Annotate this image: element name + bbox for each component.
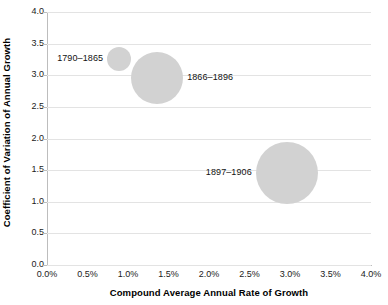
y-axis-tick-mark bbox=[43, 75, 47, 76]
y-axis-tick-mark bbox=[43, 107, 47, 108]
y-axis-tick-mark bbox=[43, 139, 47, 140]
y-axis-tick-mark bbox=[43, 12, 47, 13]
x-axis-title: Compound Average Annual Rate of Growth bbox=[47, 287, 371, 298]
bubble-label: 1897–1906 bbox=[206, 167, 252, 177]
bubble-chart: Coefficient of Variation of Annual Growt… bbox=[0, 0, 388, 305]
x-axis-tick-label: 1.0% bbox=[106, 269, 150, 279]
y-axis-tick-mark bbox=[43, 233, 47, 234]
gridline-horizontal bbox=[47, 233, 371, 234]
bubble-point bbox=[256, 142, 318, 204]
bubble-label: 1790–1865 bbox=[57, 53, 103, 63]
x-axis-tick-label: 2.5% bbox=[228, 269, 272, 279]
x-axis-tick-label: 0.5% bbox=[66, 269, 110, 279]
gridline-horizontal bbox=[47, 202, 371, 203]
y-axis-tick-mark bbox=[43, 170, 47, 171]
x-axis-tick-label: 2.0% bbox=[187, 269, 231, 279]
x-axis-tick-label: 4.0% bbox=[349, 269, 388, 279]
gridline-horizontal bbox=[47, 265, 371, 266]
bubble-point bbox=[107, 47, 131, 71]
bubble-point bbox=[131, 52, 183, 104]
x-axis-tick-label: 3.5% bbox=[309, 269, 353, 279]
y-axis-tick-mark bbox=[43, 202, 47, 203]
bubble-label: 1866–1896 bbox=[187, 72, 233, 82]
gridline-horizontal bbox=[47, 12, 371, 13]
x-axis-tick-label: 3.0% bbox=[268, 269, 312, 279]
gridline-horizontal bbox=[47, 107, 371, 108]
x-axis-tick-label: 0.0% bbox=[25, 269, 69, 279]
plot-area: 1790–18651866–18961897–1906 bbox=[47, 12, 371, 265]
gridline-horizontal bbox=[47, 139, 371, 140]
y-axis-tick-mark bbox=[43, 265, 47, 266]
x-axis-tick-label: 1.5% bbox=[147, 269, 191, 279]
y-axis-tick-mark bbox=[43, 44, 47, 45]
gridline-horizontal bbox=[47, 44, 371, 45]
